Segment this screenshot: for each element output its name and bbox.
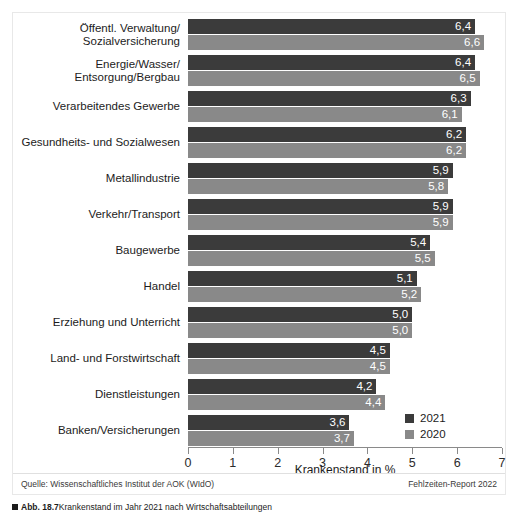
category-label: Handel (10, 280, 180, 293)
bar-2021: 6,4 (188, 19, 475, 34)
report-note: Fehlzeiten-Report 2022 (408, 479, 497, 489)
category-label: Land- und Forstwirtschaft (10, 352, 180, 365)
legend-label: 2020 (420, 428, 446, 440)
bar-2020: 5,9 (188, 215, 453, 230)
bar-2021: 6,3 (188, 91, 471, 106)
legend-swatch (405, 414, 414, 423)
bar-2021: 3,6 (188, 415, 349, 430)
category-label-line: Sozialversicherung (10, 35, 180, 48)
bar-group: 6,46,6 (188, 19, 502, 55)
category-label-line: Entsorgung/Bergbau (10, 71, 180, 84)
category-label: Öffentl. Verwaltung/Sozialversicherung (10, 22, 180, 48)
category-label-line: Banken/Versicherungen (10, 424, 180, 437)
bar-value-label: 6,6 (464, 35, 480, 50)
bar-value-label: 5,2 (401, 287, 417, 302)
category-label-line: Dienstleistungen (10, 388, 180, 401)
bar-value-label: 5,4 (410, 235, 426, 250)
category-label: Verkehr/Transport (10, 208, 180, 221)
bar-2021: 6,4 (188, 55, 475, 70)
bar-value-label: 4,5 (370, 359, 386, 374)
figure-caption: Abb. 18.7Krankenstand im Jahr 2021 nach … (12, 502, 512, 512)
plot-area: 012345676,46,66,46,56,36,16,26,25,95,85,… (188, 19, 502, 447)
category-label: Metallindustrie (10, 172, 180, 185)
category-label: Energie/Wasser/Entsorgung/Bergbau (10, 58, 180, 84)
caption-marker (12, 504, 18, 510)
bar-value-label: 5,0 (392, 307, 408, 322)
legend-swatch (405, 430, 414, 439)
category-axis-labels: Öffentl. Verwaltung/SozialversicherungEn… (13, 19, 188, 447)
bar-2020: 5,2 (188, 287, 421, 302)
bar-value-label: 6,4 (455, 19, 471, 34)
bar-value-label: 6,1 (442, 107, 458, 122)
bar-2020: 6,2 (188, 143, 466, 158)
caption-label: Abb. 18.7 (21, 502, 59, 512)
bar-value-label: 5,9 (433, 215, 449, 230)
category-label: Dienstleistungen (10, 388, 180, 401)
category-label: Erziehung und Unterricht (10, 316, 180, 329)
bar-2020: 4,5 (188, 359, 390, 374)
bar-group: 5,05,0 (188, 307, 502, 343)
legend-entry: 2021 (405, 411, 475, 425)
category-label-line: Gesundheits- und Sozialwesen (10, 136, 180, 149)
bar-group: 6,46,5 (188, 55, 502, 91)
source-note: Quelle: Wissenschaftliches Institut der … (21, 479, 214, 489)
bar-2021: 5,0 (188, 307, 412, 322)
bar-2020: 3,7 (188, 431, 354, 446)
bar-2020: 6,1 (188, 107, 462, 122)
bar-group: 4,24,4 (188, 379, 502, 415)
bar-2021: 4,2 (188, 379, 376, 394)
bar-value-label: 6,2 (446, 127, 462, 142)
bar-group: 5,95,8 (188, 163, 502, 199)
bar-value-label: 4,5 (370, 343, 386, 358)
bar-value-label: 5,0 (392, 323, 408, 338)
bar-2020: 5,8 (188, 179, 448, 194)
bar-group: 6,36,1 (188, 91, 502, 127)
bar-group: 4,54,5 (188, 343, 502, 379)
x-tick-mark (502, 448, 503, 454)
category-label-line: Land- und Forstwirtschaft (10, 352, 180, 365)
bar-value-label: 5,8 (428, 179, 444, 194)
bar-2021: 5,4 (188, 235, 430, 250)
category-label-line: Erziehung und Unterricht (10, 316, 180, 329)
bar-value-label: 5,1 (397, 271, 413, 286)
bar-value-label: 5,9 (433, 163, 449, 178)
bar-2020: 6,6 (188, 35, 484, 50)
category-label: Gesundheits- und Sozialwesen (10, 136, 180, 149)
bar-2021: 5,9 (188, 199, 453, 214)
bar-2020: 5,5 (188, 251, 435, 266)
bar-value-label: 3,7 (334, 431, 350, 446)
category-label-line: Verkehr/Transport (10, 208, 180, 221)
category-label-line: Metallindustrie (10, 172, 180, 185)
bar-value-label: 6,2 (446, 143, 462, 158)
chart-legend: 20212020 (405, 411, 475, 443)
category-label-line: Verarbeitendes Gewerbe (10, 100, 180, 113)
bar-2020: 4,4 (188, 395, 385, 410)
chart-footer: Quelle: Wissenschaftliches Institut der … (13, 475, 505, 495)
category-label-line: Energie/Wasser/ (10, 58, 180, 71)
bar-group: 5,15,2 (188, 271, 502, 307)
footer-divider (13, 473, 505, 474)
category-label: Baugewerbe (10, 244, 180, 257)
bar-2021: 6,2 (188, 127, 466, 142)
legend-label: 2021 (420, 412, 446, 424)
caption-text: Krankenstand im Jahr 2021 nach Wirtschaf… (59, 502, 272, 512)
bar-2020: 6,5 (188, 71, 480, 86)
bar-value-label: 6,3 (451, 91, 467, 106)
bar-value-label: 5,5 (415, 251, 431, 266)
bar-value-label: 4,2 (356, 379, 372, 394)
category-label-line: Baugewerbe (10, 244, 180, 257)
bar-group: 5,95,9 (188, 199, 502, 235)
bar-group: 5,45,5 (188, 235, 502, 271)
bar-value-label: 6,4 (455, 55, 471, 70)
bar-2021: 4,5 (188, 343, 390, 358)
bar-group: 6,26,2 (188, 127, 502, 163)
category-label: Banken/Versicherungen (10, 424, 180, 437)
category-label-line: Öffentl. Verwaltung/ (10, 22, 180, 35)
bar-value-label: 3,6 (329, 415, 345, 430)
category-label: Verarbeitendes Gewerbe (10, 100, 180, 113)
bar-2021: 5,1 (188, 271, 417, 286)
bar-value-label: 5,9 (433, 199, 449, 214)
chart-figure: Öffentl. Verwaltung/SozialversicherungEn… (12, 12, 506, 495)
bar-2021: 5,9 (188, 163, 453, 178)
legend-entry: 2020 (405, 427, 475, 441)
